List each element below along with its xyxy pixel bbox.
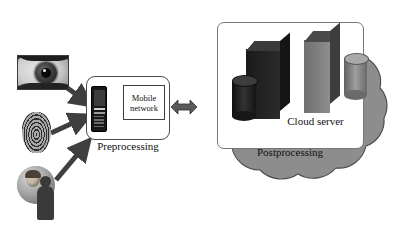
server-cylinder-gray-icon — [344, 53, 367, 100]
arrow-iris-to-phone — [66, 87, 88, 103]
diagram-canvas: Mobile network Preprocessing — [0, 0, 409, 231]
phone-band-1 — [94, 108, 105, 110]
person-silhouette-icon — [37, 176, 54, 220]
preprocessing-label: Preprocessing — [82, 140, 174, 152]
iris-lower-lid — [17, 83, 69, 90]
iris-sample-image — [17, 55, 69, 90]
server-rack-gray-icon — [304, 31, 340, 113]
fingerprint-ridges — [22, 112, 51, 153]
iris-glint — [43, 69, 46, 72]
arrow-fingerprint-to-phone — [51, 117, 86, 133]
mobile-network-box: Mobile network — [123, 85, 165, 120]
phone-screen — [94, 90, 105, 106]
mobile-network-label-line2: network — [130, 103, 158, 113]
mobile-network-label-line1: Mobile — [132, 93, 157, 103]
phone-keypad — [94, 116, 104, 129]
cloud-region: Cloud server Postprocessing — [192, 18, 409, 218]
postprocessing-label: Postprocessing — [210, 146, 370, 158]
cloud-server-box: Cloud server — [217, 22, 364, 149]
fingerprint-sample-image — [22, 112, 51, 153]
mobile-phone-icon — [91, 86, 107, 132]
iris-upper-lid — [17, 55, 69, 61]
silhouette-body — [37, 186, 54, 220]
cloud-server-label: Cloud server — [243, 115, 388, 127]
phone-band-2 — [94, 112, 105, 114]
